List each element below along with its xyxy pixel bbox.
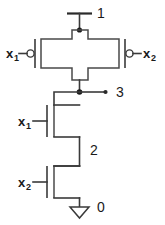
nmos-top-input-subscript: 1 <box>26 121 31 131</box>
nmos-bottom-group: x 2 <box>18 166 80 198</box>
vdd-node-label: 1 <box>97 5 105 21</box>
nmos-bottom-input-subscript: 2 <box>26 182 31 192</box>
pmos-right-inversion-bubble <box>126 50 133 57</box>
output-node-label: 3 <box>116 84 124 100</box>
output-terminal-dot <box>103 90 107 94</box>
nmos-top-group: x 1 <box>18 92 80 137</box>
ground-node-label: 0 <box>97 199 105 215</box>
pmos-right-gate-group: x 2 <box>125 39 156 68</box>
intermediate-node-group: 2 <box>80 137 99 166</box>
pmos-left-gate-group: x 1 <box>6 39 35 68</box>
pmos-right-input-subscript: 2 <box>151 53 156 63</box>
pmos-cross-outline <box>41 30 119 80</box>
pmos-left-inversion-bubble <box>27 50 34 57</box>
output-node-group: 3 <box>77 80 124 100</box>
nmos-bottom-input-label: x <box>18 175 26 190</box>
pmos-left-input-label: x <box>6 46 14 61</box>
nmos-top-input-label: x <box>18 114 26 129</box>
pmos-right-input-label: x <box>143 46 151 61</box>
nmos-top-drain-wire <box>54 92 80 105</box>
circuit-canvas: x 1 x 2 3 1 <box>0 0 165 225</box>
pmos-left-input-subscript: 1 <box>14 53 19 63</box>
ground-group: 0 <box>70 198 105 218</box>
pmos-pair-body <box>41 30 119 80</box>
intermediate-node-label: 2 <box>90 142 98 158</box>
circuit-schematic: x 1 x 2 3 1 <box>0 0 165 225</box>
ground-triangle-icon <box>70 207 89 218</box>
